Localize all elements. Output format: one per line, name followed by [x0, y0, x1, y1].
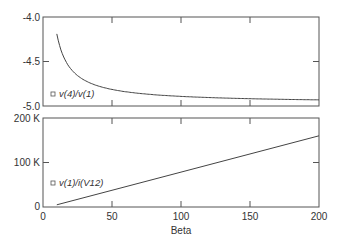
top-legend-label: v(4)/v(1) [59, 88, 94, 99]
bottom-series-line [57, 136, 319, 205]
top-ytick-1: -4.5 [23, 56, 41, 67]
bottom-legend-marker-icon [51, 181, 55, 185]
xtick-4: 200 [311, 211, 328, 222]
bottom-ytick-0: 200 K [14, 113, 40, 124]
bottom-plot-frame [43, 118, 319, 207]
xtick-1: 50 [106, 211, 118, 222]
xtick-2: 100 [173, 211, 190, 222]
xtick-0: 0 [40, 211, 46, 222]
chart-figure: -4.0 -4.5 -5.0 v(4)/v(1) 200 K 100 K 0 v… [0, 0, 340, 245]
xtick-3: 150 [242, 211, 259, 222]
top-ytick-0: -4.0 [23, 12, 41, 23]
bottom-legend-label: v(1)/i(V12) [59, 177, 103, 188]
top-series-line [57, 34, 319, 100]
x-axis-label: Beta [171, 225, 192, 236]
bottom-ytick-1: 100 K [14, 157, 40, 168]
top-legend-marker-icon [51, 92, 55, 96]
bottom-plot: 200 K 100 K 0 v(1)/i(V12) 0 50 100 150 2… [14, 113, 328, 236]
top-ytick-2: -5.0 [23, 101, 41, 112]
top-plot: -4.0 -4.5 -5.0 v(4)/v(1) [23, 12, 319, 112]
